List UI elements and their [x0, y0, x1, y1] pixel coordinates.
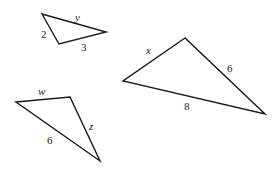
- label-x: x: [145, 44, 151, 56]
- triangle-large-shape: [123, 38, 265, 114]
- triangle-obtuse: w z 6: [16, 85, 100, 161]
- label-side-3: 3: [81, 41, 87, 53]
- triangle-small-shape: [42, 14, 106, 44]
- label-w: w: [38, 85, 46, 97]
- label-y: y: [74, 11, 80, 23]
- label-side-6: 6: [227, 62, 233, 74]
- label-side-2: 2: [41, 28, 47, 40]
- triangle-small: y 2 3: [41, 11, 106, 53]
- triangle-obtuse-shape: [16, 97, 100, 161]
- label-side-6-lower: 6: [47, 134, 53, 146]
- label-side-8: 8: [184, 100, 190, 112]
- triangle-large: x 6 8: [123, 38, 265, 114]
- label-z: z: [88, 120, 94, 132]
- triangles-diagram: y 2 3 x 6 8 w z 6: [0, 0, 277, 174]
